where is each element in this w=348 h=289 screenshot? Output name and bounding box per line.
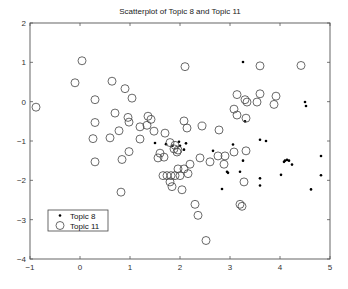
data-point-dot [212, 150, 215, 153]
data-point-circle [230, 148, 238, 156]
data-point-dot [265, 140, 268, 143]
data-point-circle [272, 92, 280, 100]
x-tick-label: −1 [25, 263, 35, 272]
y-tick-label: 2 [22, 19, 27, 28]
y-tick-label: −2 [17, 176, 27, 185]
data-point-dot [259, 184, 262, 187]
legend-dot-icon [59, 214, 62, 217]
data-point-circle [111, 109, 119, 117]
x-tick-label: 4 [278, 263, 283, 272]
data-point-circle [71, 79, 79, 87]
data-point-circle [256, 62, 264, 70]
data-point-circle [270, 100, 278, 108]
chart-title: Scatterplot of Topic 8 and Topic 11 [119, 7, 241, 16]
data-point-circle [233, 91, 241, 99]
data-point-circle [136, 135, 144, 143]
data-point-circle [89, 135, 97, 143]
data-point-circle [91, 119, 99, 127]
data-point-circle [108, 77, 116, 85]
data-point-dot [232, 143, 235, 146]
data-point-circle [115, 127, 123, 135]
data-point-dot [320, 155, 323, 158]
data-point-circle [118, 155, 126, 163]
data-point-circle [194, 211, 202, 219]
data-point-dot [283, 161, 286, 164]
data-point-circle [297, 61, 305, 69]
data-point-circle [106, 134, 114, 142]
data-point-dot [320, 174, 323, 177]
x-tick-label: 5 [328, 263, 333, 272]
data-point-circle [196, 154, 204, 162]
data-point-circle [186, 160, 194, 168]
data-point-circle [238, 202, 246, 210]
data-point-circle [184, 170, 192, 178]
data-point-dot [183, 148, 186, 151]
data-point-circle [253, 98, 261, 106]
data-point-dot [304, 101, 307, 104]
data-point-circle [168, 183, 176, 191]
data-point-circle [256, 90, 264, 98]
data-point-dot [305, 105, 308, 108]
data-point-dot [227, 172, 230, 175]
data-point-circle [240, 178, 248, 186]
legend-label-topic-8: Topic 8 [70, 212, 96, 221]
data-point-circle [242, 147, 250, 155]
data-point-dot [154, 142, 157, 145]
data-point-circle [206, 158, 214, 166]
data-point-circle [125, 148, 133, 156]
data-point-dot [185, 142, 188, 145]
data-point-circle [143, 121, 151, 129]
data-point-circle [117, 188, 125, 196]
data-point-circle [178, 186, 186, 194]
data-point-circle [191, 200, 199, 208]
y-tick-label: −3 [17, 216, 27, 225]
data-point-circle [128, 94, 136, 102]
data-point-circle [78, 57, 86, 65]
data-point-circle [125, 118, 133, 126]
data-point-circle [241, 96, 249, 104]
data-point-circle [161, 129, 169, 137]
data-point-circle [236, 200, 244, 208]
x-tick-label: 3 [228, 263, 233, 272]
data-point-circle [202, 237, 210, 245]
data-point-dot [310, 188, 313, 191]
data-point-dot [259, 177, 262, 180]
legend: Topic 8 Topic 11 [48, 210, 108, 231]
y-tick-label: 1 [22, 58, 27, 67]
data-point-dot [259, 139, 262, 142]
x-tick-label: 1 [128, 263, 133, 272]
data-point-dot [291, 163, 294, 166]
data-point-dot [280, 174, 283, 177]
data-point-dot [242, 61, 245, 64]
axis-ticks: −1012345210−1−2−3−4 [17, 19, 333, 272]
y-tick-label: 0 [22, 98, 27, 107]
data-point-circle [215, 126, 223, 134]
data-point-dot [242, 159, 245, 162]
data-point-circle [91, 96, 99, 104]
x-tick-label: 2 [178, 263, 183, 272]
data-point-circle [121, 85, 129, 93]
legend-label-topic-11: Topic 11 [70, 222, 100, 231]
data-point-dot [288, 159, 291, 162]
scatter-chart: Scatterplot of Topic 8 and Topic 11 −101… [0, 0, 348, 289]
data-point-dot [239, 170, 242, 173]
data-point-circle [91, 158, 99, 166]
data-point-circle [198, 122, 206, 130]
data-point-circle [180, 117, 188, 125]
y-tick-label: −4 [17, 255, 27, 264]
x-tick-label: 0 [78, 263, 83, 272]
data-point-circle [150, 127, 158, 135]
data-point-circle [181, 63, 189, 71]
data-point-circle [32, 103, 40, 111]
y-tick-label: −1 [17, 137, 27, 146]
data-point-circle [220, 160, 228, 168]
series-topic-8 [154, 61, 323, 191]
data-point-dot [221, 188, 224, 191]
data-point-circle [243, 98, 251, 106]
